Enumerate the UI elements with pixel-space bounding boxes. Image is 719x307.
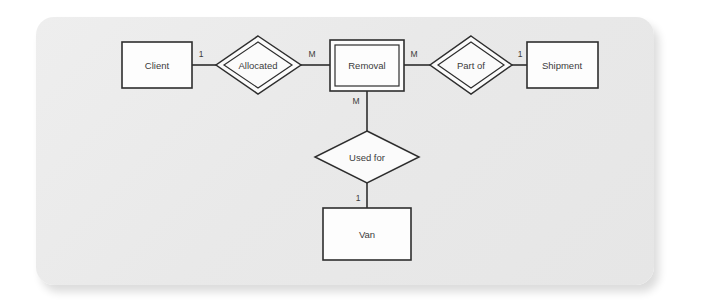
cardinality-removal-bottom: M (352, 96, 359, 106)
entity-van[interactable]: Van (323, 208, 411, 260)
relationship-used-for-label: Used for (349, 152, 385, 163)
entity-van-label: Van (359, 229, 375, 240)
entity-removal[interactable]: Removal (330, 40, 404, 91)
cardinality-client-side: 1 (199, 49, 204, 59)
er-diagram: Client Allocated Removal Part of Shipmen… (0, 0, 719, 307)
relationship-allocated[interactable]: Allocated (216, 36, 301, 94)
relationship-allocated-label: Allocated (238, 60, 277, 71)
relationship-used-for[interactable]: Used for (315, 131, 419, 183)
cardinality-shipment-side: 1 (518, 49, 523, 59)
cardinality-removal-right: M (410, 49, 417, 59)
entity-client-label: Client (145, 60, 170, 71)
cardinality-van-top: 1 (356, 193, 361, 203)
relationship-part-of-label: Part of (457, 60, 485, 71)
cardinality-removal-left: M (308, 49, 315, 59)
relationship-part-of[interactable]: Part of (430, 36, 512, 94)
entity-client[interactable]: Client (122, 42, 192, 88)
entity-shipment-label: Shipment (542, 60, 582, 71)
figure-canvas: Client Allocated Removal Part of Shipmen… (0, 0, 719, 307)
entity-shipment[interactable]: Shipment (527, 42, 598, 88)
entity-removal-label: Removal (348, 60, 386, 71)
